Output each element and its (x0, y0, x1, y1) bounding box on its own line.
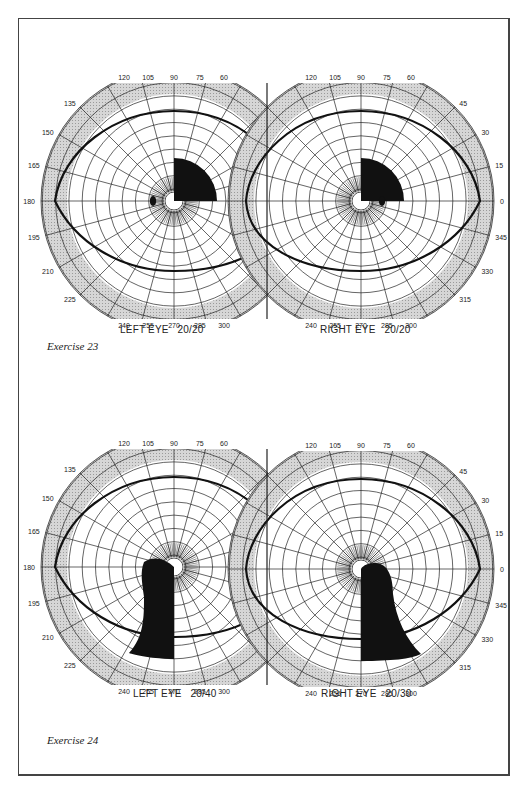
meridian-label: 105 (329, 74, 341, 81)
meridian-label: 120 (118, 440, 130, 447)
meridian-label: 315 (459, 664, 471, 671)
meridian-label: 135 (64, 100, 76, 107)
meridian-label: 195 (28, 600, 40, 607)
ex23-left-eye-label: LEFT EYE 20/20 (120, 324, 204, 335)
ex24-right-eye-label: RIGHT EYE 20/30 (321, 688, 412, 699)
meridian-label: 90 (170, 74, 178, 81)
meridian-label: 240 (305, 322, 317, 329)
meridian-label: 0 (500, 198, 504, 205)
meridian-label: 195 (28, 234, 40, 241)
meridian-label: 90 (357, 442, 365, 449)
meridian-label: 75 (196, 74, 204, 81)
meridian-label: 15 (495, 530, 503, 537)
ex23-right-eye-chart: 1201059075602402552702853004530150345330… (228, 68, 507, 334)
meridian-label: 300 (218, 322, 230, 329)
meridian-label: 75 (383, 74, 391, 81)
ex24-caption: Exercise 24 (47, 734, 98, 746)
meridian-label: 120 (305, 442, 317, 449)
blind-spot (379, 196, 385, 206)
meridian-label: 120 (305, 74, 317, 81)
meridian-label: 105 (142, 440, 154, 447)
meridian-label: 300 (218, 688, 230, 695)
meridian-label: 75 (196, 440, 204, 447)
meridian-label: 240 (118, 688, 130, 695)
meridian-label: 120 (118, 74, 130, 81)
meridian-label: 150 (42, 129, 54, 136)
ex23-right-eye-label: RIGHT EYE 20/20 (320, 324, 411, 335)
ex24-right-eye-chart: 1201059075602402552702853004530150345330… (228, 436, 507, 702)
meridian-label: 30 (481, 497, 489, 504)
ex24-left-eye-label: LEFT EYE 20/40 (133, 688, 217, 699)
meridian-label: 330 (481, 636, 493, 643)
meridian-label: 180 (23, 564, 35, 571)
meridian-label: 60 (407, 74, 415, 81)
meridian-label: 165 (28, 528, 40, 535)
meridian-label: 90 (170, 440, 178, 447)
meridian-label: 15 (495, 162, 503, 169)
meridian-label: 165 (28, 162, 40, 169)
meridian-label: 210 (42, 634, 54, 641)
meridian-label: 345 (495, 602, 507, 609)
blind-spot (150, 196, 156, 206)
meridian-label: 45 (459, 100, 467, 107)
meridian-label: 0 (500, 566, 504, 573)
meridian-label: 105 (329, 442, 341, 449)
meridian-label: 75 (383, 442, 391, 449)
meridian-label: 60 (220, 74, 228, 81)
meridian-label: 225 (64, 296, 76, 303)
meridian-label: 210 (42, 268, 54, 275)
meridian-label: 225 (64, 662, 76, 669)
meridian-label: 45 (459, 468, 467, 475)
meridian-label: 135 (64, 466, 76, 473)
meridian-label: 150 (42, 495, 54, 502)
meridian-label: 60 (220, 440, 228, 447)
meridian-label: 60 (407, 442, 415, 449)
meridian-label: 330 (481, 268, 493, 275)
meridian-label: 30 (481, 129, 489, 136)
meridian-label: 180 (23, 198, 35, 205)
meridian-label: 240 (305, 690, 317, 697)
meridian-label: 315 (459, 296, 471, 303)
ex23-caption: Exercise 23 (47, 340, 98, 352)
meridian-label: 345 (495, 234, 507, 241)
meridian-label: 90 (357, 74, 365, 81)
meridian-label: 105 (142, 74, 154, 81)
perimetry-charts: 1201059075602402552702853001351501651801… (0, 0, 531, 791)
